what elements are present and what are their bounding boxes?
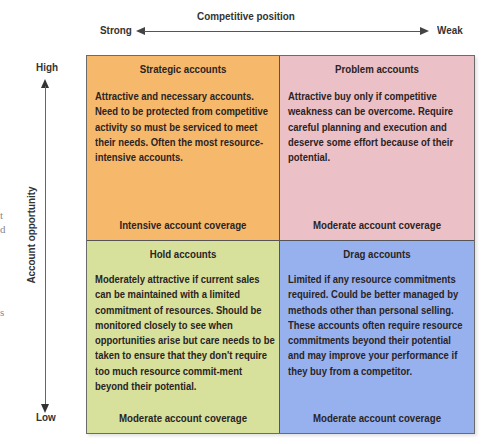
quadrant-title: Strategic accounts — [99, 63, 268, 75]
quadrant-coverage: Moderate account coverage — [99, 412, 268, 424]
vertical-axis-title: Account opportunity — [25, 186, 37, 283]
horizontal-axis-title: Competitive position — [34, 10, 457, 22]
quadrant-description: Limited if any resource commitments requ… — [288, 272, 470, 379]
axis-label-weak: Weak — [437, 24, 463, 36]
quadrant-description: Attractive and necessary accounts. Need … — [95, 89, 277, 165]
quadrant-coverage: Moderate account coverage — [292, 219, 463, 231]
account-matrix: Strategic accounts Attractive and necess… — [86, 55, 475, 434]
quadrant-description: Attractive buy only if competitive weakn… — [288, 89, 470, 165]
quadrant-title: Hold accounts — [99, 248, 268, 260]
quadrant-coverage: Intensive account coverage — [99, 219, 268, 231]
quadrant-problem-accounts: Problem accounts Attractive buy only if … — [280, 56, 474, 241]
margin-fragment: t — [0, 209, 3, 221]
arrow-right-icon — [420, 27, 429, 35]
horizontal-axis-line — [144, 31, 421, 32]
quadrant-strategic-accounts: Strategic accounts Attractive and necess… — [87, 56, 280, 241]
quadrant-drag-accounts: Drag accounts Limited if any resource co… — [280, 241, 474, 433]
quadrant-hold-accounts: Hold accounts Moderately attractive if c… — [87, 241, 280, 433]
margin-fragment: s — [0, 306, 4, 318]
axis-label-high: High — [36, 61, 58, 73]
quadrant-title: Drag accounts — [292, 248, 463, 260]
axis-label-strong: Strong — [100, 24, 132, 36]
quadrant-coverage: Moderate account coverage — [292, 412, 463, 424]
axis-label-low: Low — [36, 411, 56, 423]
quadrant-title: Problem accounts — [292, 63, 463, 75]
quadrant-description: Moderately attractive if current sales c… — [95, 272, 277, 394]
vertical-axis-line — [45, 86, 46, 406]
margin-fragment: d — [0, 223, 6, 235]
